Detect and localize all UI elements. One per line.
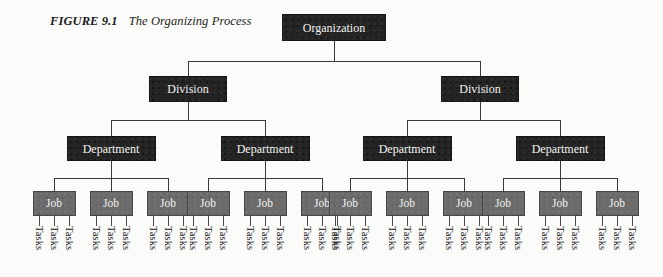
node-organization: Organization [282, 14, 386, 41]
task-label: Tasks [275, 226, 286, 250]
connector-job-riser [265, 178, 266, 191]
connector-task-stem [464, 216, 465, 226]
connector-task-stem [280, 216, 281, 226]
connector-task-stem [350, 216, 351, 226]
connector-task-stem [575, 216, 576, 226]
figure-title: The Organizing Process [129, 14, 252, 28]
node-job-5: Job [244, 191, 287, 216]
connector-job-riser [617, 178, 618, 191]
task-label: Tasks [91, 226, 102, 250]
connector-division-bus [407, 120, 560, 121]
task-label: Tasks [513, 226, 524, 250]
connector-job-riser [350, 178, 351, 191]
task-label: Tasks [555, 226, 566, 250]
connector-task-stem [54, 216, 55, 226]
connector-task-stem [560, 216, 561, 226]
connector-task-stem [168, 216, 169, 226]
connector-task-stem [183, 216, 184, 226]
task-label: Tasks [148, 226, 159, 250]
connector-task-stem [208, 216, 209, 226]
connector-task-stem [193, 216, 194, 226]
node-job-1-label: Job [46, 198, 62, 210]
connector-task-stem [250, 216, 251, 226]
connector-job-riser [503, 178, 504, 191]
task-label: Tasks [330, 226, 341, 250]
connector-task-stem [602, 216, 603, 226]
connector-task-stem [223, 216, 224, 226]
task-label: Tasks [218, 226, 229, 250]
task-label: Tasks [483, 226, 494, 250]
connector-department-riser [560, 120, 561, 136]
connector-job-riser [407, 178, 408, 191]
connector-task-stem [488, 216, 489, 226]
node-job-5-label: Job [257, 198, 273, 210]
connector-task-stem [337, 216, 338, 226]
connector-job-riser [54, 178, 55, 191]
connector-task-stem [39, 216, 40, 226]
task-label: Tasks [188, 226, 199, 250]
connector-task-stem [407, 216, 408, 226]
connector-task-stem [335, 216, 336, 226]
figure-organizing-process: FIGURE 9.1The Organizing Process Organiz… [0, 0, 663, 277]
task-label: Tasks [402, 226, 413, 250]
task-label: Tasks [163, 226, 174, 250]
task-label: Tasks [345, 226, 356, 250]
connector-task-stem [365, 216, 366, 226]
connector-department-riser [111, 120, 112, 136]
task-label: Tasks [498, 226, 509, 250]
task-label: Tasks [245, 226, 256, 250]
connector-department-drop [265, 161, 266, 178]
task-label: Tasks [360, 226, 371, 250]
connector-organization-drop [334, 41, 335, 61]
node-division-2-label: Division [459, 83, 500, 95]
node-job-10: Job [482, 191, 525, 216]
node-job-3-label: Job [160, 198, 176, 210]
connector-task-stem [617, 216, 618, 226]
node-job-9-label: Job [456, 198, 472, 210]
connector-task-stem [69, 216, 70, 226]
task-label: Tasks [49, 226, 60, 250]
node-department-2-label: Department [237, 143, 294, 155]
connector-task-stem [111, 216, 112, 226]
task-label: Tasks [459, 226, 470, 250]
connector-task-stem [518, 216, 519, 226]
connector-task-stem [307, 216, 308, 226]
task-label: Tasks [260, 226, 271, 250]
connector-division-drop [188, 102, 189, 120]
connector-task-stem [322, 216, 323, 226]
connector-department-drop [560, 161, 561, 178]
task-label: Tasks [106, 226, 117, 250]
task-label: Tasks [203, 226, 214, 250]
node-department-1-label: Department [83, 143, 140, 155]
connector-division-riser [480, 61, 481, 76]
task-label: Tasks [444, 226, 455, 250]
connector-task-stem [265, 216, 266, 226]
task-label: Tasks [302, 226, 313, 250]
connector-division-riser [188, 61, 189, 76]
connector-task-stem [422, 216, 423, 226]
node-job-9: Job [443, 191, 486, 216]
node-department-1: Department [67, 136, 156, 161]
connector-department-riser [407, 120, 408, 136]
node-department-3: Department [363, 136, 452, 161]
task-label: Tasks [612, 226, 623, 250]
task-label: Tasks [34, 226, 45, 250]
task-label: Tasks [627, 226, 638, 250]
task-label: Tasks [417, 226, 428, 250]
connector-task-stem [503, 216, 504, 226]
node-job-12: Job [596, 191, 639, 216]
node-job-11: Job [539, 191, 582, 216]
node-division-2: Division [441, 76, 519, 102]
task-label: Tasks [540, 226, 551, 250]
node-job-2: Job [90, 191, 133, 216]
node-department-4-label: Department [532, 143, 589, 155]
task-label: Tasks [387, 226, 398, 250]
node-department-2: Department [221, 136, 310, 161]
node-department-3-label: Department [379, 143, 436, 155]
node-job-10-label: Job [495, 198, 511, 210]
node-job-1: Job [33, 191, 76, 216]
task-label: Tasks [570, 226, 581, 250]
task-label: Tasks [64, 226, 75, 250]
node-job-7-label: Job [342, 198, 358, 210]
figure-number: FIGURE 9.1 [50, 14, 118, 28]
